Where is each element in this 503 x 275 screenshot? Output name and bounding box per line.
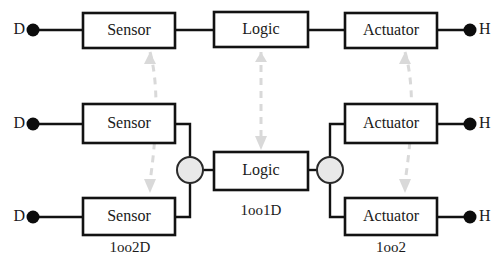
terminal-label-d-mid: D: [13, 114, 25, 131]
architecture-diagram: Sensor Logic Actuator D H: [0, 0, 503, 275]
terminal-label-d-bottom: D: [13, 207, 25, 224]
terminal-label-h-top: H: [479, 20, 491, 37]
top-chain-group: Sensor Logic Actuator D H: [13, 12, 491, 48]
block-sensor-bottom-label: Sensor: [107, 207, 151, 224]
terminal-label-d-top: D: [13, 20, 25, 37]
wire-sensor-mid-to-junction: [175, 124, 190, 157]
block-logic-top-label: Logic: [242, 20, 279, 38]
ghost-arrow-logic-icon: [255, 52, 267, 150]
junction-right-node[interactable]: [317, 157, 343, 183]
junction-left-node[interactable]: [177, 157, 203, 183]
block-actuator-bottom-label: Actuator: [363, 207, 420, 224]
terminal-dot-h-bottom: [464, 211, 477, 224]
terminal-label-h-bottom: H: [479, 207, 491, 224]
block-sensor-mid-label: Sensor: [107, 114, 151, 131]
ghost-arrow-sensor-up-icon: [144, 52, 156, 64]
architecture-label-1oo1d: 1oo1D: [241, 202, 282, 218]
block-logic-mid-label: Logic: [242, 161, 279, 179]
terminal-dot-d-bottom: [27, 211, 40, 224]
wire-sensor-bottom-to-junction: [175, 183, 190, 217]
block-sensor-top-label: Sensor: [107, 21, 151, 38]
architecture-label-1oo2d: 1oo2D: [110, 239, 151, 255]
terminal-dot-h-mid: [464, 118, 477, 131]
terminal-dot-h-top: [464, 24, 477, 37]
terminal-dot-d-top: [27, 24, 40, 37]
block-actuator-mid-label: Actuator: [363, 114, 420, 131]
wire-junction-to-actuator-mid: [330, 124, 345, 157]
terminal-label-h-mid: H: [479, 114, 491, 131]
block-actuator-top-label: Actuator: [363, 21, 420, 38]
ghost-arrow-actuator-up-icon: [399, 52, 411, 64]
architecture-label-1oo2: 1oo2: [376, 239, 406, 255]
diagram-canvas: Sensor Logic Actuator D H: [0, 0, 503, 275]
terminal-dot-d-mid: [27, 118, 40, 131]
wire-junction-to-actuator-bottom: [330, 183, 345, 217]
